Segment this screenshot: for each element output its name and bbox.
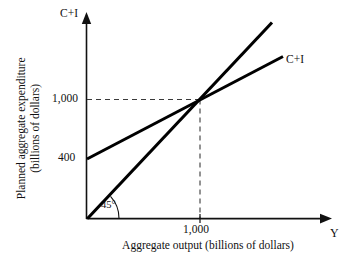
series-line-45-degree bbox=[88, 23, 273, 219]
keynesian-cross-figure: C+I C+I 1,000 400 45° 1,000 Y Aggregate … bbox=[0, 0, 348, 269]
x-axis-tick-label-1000: 1,000 bbox=[183, 224, 209, 236]
y-axis-arrowhead bbox=[82, 12, 91, 24]
y-axis-tick-label-400: 400 bbox=[58, 152, 75, 164]
x-axis-variable-label: Y bbox=[330, 227, 339, 239]
y-axis-tick-label-1000: 1,000 bbox=[52, 93, 78, 105]
x-axis-arrowhead bbox=[320, 214, 332, 224]
y-axis-title-line-1: Planned aggregate expenditure bbox=[14, 28, 28, 228]
angle-label-45-degree: 45° bbox=[101, 200, 116, 211]
y-axis-title-line-2: (billions of dollars) bbox=[28, 28, 42, 228]
series-label-ci: C+I bbox=[286, 54, 304, 66]
chart-plot-area bbox=[0, 0, 348, 269]
x-axis-title: Aggregate output (billions of dollars) bbox=[88, 240, 328, 252]
y-axis-variable-label: C+I bbox=[60, 8, 78, 20]
series-line-ci bbox=[87, 57, 283, 160]
y-axis-title: Planned aggregate expenditure (billions … bbox=[14, 28, 43, 228]
